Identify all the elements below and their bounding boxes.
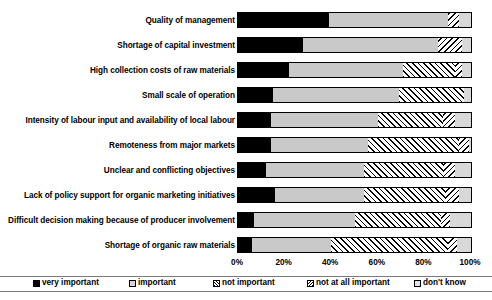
bar-segment-noti xyxy=(331,238,448,252)
chart-row: High collection costs of raw materials xyxy=(0,58,492,83)
category-label: Quality of management xyxy=(146,8,236,33)
bar-segment-notatall xyxy=(441,213,450,227)
legend-label: not at all important xyxy=(316,278,390,288)
bar-segment-very xyxy=(238,188,275,202)
bar-segment-very xyxy=(238,113,271,127)
bar-segment-dk xyxy=(464,88,471,102)
bar-segment-dk xyxy=(462,63,471,77)
legend-swatch-icon xyxy=(33,280,40,287)
legend-swatch-icon xyxy=(414,280,421,287)
x-tick-label: 0% xyxy=(231,258,243,267)
bar-segment-notatall xyxy=(445,188,459,202)
legend-swatch-icon xyxy=(213,280,220,287)
legend-label: don't know xyxy=(423,278,466,288)
legend-label: not important xyxy=(222,278,275,288)
bar-segment-very xyxy=(238,138,271,152)
bar-segment-very xyxy=(238,38,303,52)
bar-segment-imp xyxy=(329,13,448,27)
bar-segment-notatall xyxy=(443,113,455,127)
bar-segment-very xyxy=(238,63,289,77)
bar-segment-dk xyxy=(457,238,471,252)
legend-item[interactable]: not important xyxy=(213,278,275,288)
legend-item[interactable]: don't know xyxy=(414,278,466,288)
stacked-bar xyxy=(237,62,472,78)
chart-row: Lack of policy support for organic marke… xyxy=(0,183,492,208)
stacked-bar xyxy=(237,112,472,128)
legend-item[interactable]: not at all important xyxy=(307,278,390,288)
bar-segment-dk xyxy=(455,163,471,177)
bar-segment-very xyxy=(238,163,266,177)
bar-segment-dk xyxy=(469,138,471,152)
bar-segment-imp xyxy=(303,38,438,52)
x-tick-label: 100% xyxy=(460,258,481,267)
stacked-bar xyxy=(237,87,472,103)
chart-row: Shortage of capital investment xyxy=(0,33,492,58)
legend-label: important xyxy=(138,278,176,288)
bar-segment-notatall xyxy=(438,38,461,52)
bar-segment-very xyxy=(238,213,254,227)
category-label: High collection costs of raw materials xyxy=(90,58,235,83)
stacked-bar xyxy=(237,237,472,253)
bar-segment-dk xyxy=(455,113,471,127)
legend-items: very importantimportantnot importantnot … xyxy=(0,277,492,291)
stacked-bar xyxy=(237,187,472,203)
bar-segment-noti xyxy=(368,138,459,152)
stacked-bar-chart: Quality of managementShortage of capital… xyxy=(0,0,492,300)
category-label: Shortage of capital investment xyxy=(117,33,235,58)
bar-segment-dk xyxy=(459,188,471,202)
stacked-bar xyxy=(237,137,472,153)
bar-segment-very xyxy=(238,88,273,102)
category-label: Remoteness from major markets xyxy=(109,133,235,158)
bar-segment-dk xyxy=(450,213,471,227)
bar-segment-imp xyxy=(266,163,364,177)
x-tick-label: 20% xyxy=(275,258,291,267)
stacked-bar xyxy=(237,37,472,53)
bar-segment-notatall xyxy=(455,63,462,77)
x-tick-label: 80% xyxy=(415,258,431,267)
bar-segment-notatall xyxy=(448,238,457,252)
bar-segment-imp xyxy=(271,138,369,152)
bar-segment-very xyxy=(238,238,252,252)
chart-row: Small scale of operation xyxy=(0,83,492,108)
chart-row: Difficult decision making because of pro… xyxy=(0,208,492,233)
bar-segment-dk xyxy=(462,38,471,52)
category-label: Small scale of operation xyxy=(142,83,235,108)
bar-segment-noti xyxy=(378,113,443,127)
chart-legend: very importantimportantnot importantnot … xyxy=(0,276,492,292)
bar-segment-noti xyxy=(364,163,443,177)
stacked-bar xyxy=(237,212,472,228)
bar-segment-imp xyxy=(273,88,399,102)
x-axis: 0%20%40%60%80%100% xyxy=(237,258,470,272)
bar-segment-imp xyxy=(275,188,364,202)
chart-row: Shortage of organic raw materials xyxy=(0,233,492,258)
bar-segment-imp xyxy=(289,63,403,77)
bar-segment-dk xyxy=(459,13,471,27)
category-label: Intensity of labour input and availabili… xyxy=(25,108,235,133)
bar-segment-noti xyxy=(399,88,464,102)
legend-item[interactable]: very important xyxy=(33,278,99,288)
x-tick-label: 40% xyxy=(322,258,338,267)
bar-segment-noti xyxy=(364,188,446,202)
chart-plot-area: Quality of managementShortage of capital… xyxy=(0,8,492,258)
chart-row: Unclear and conflicting objectives xyxy=(0,158,492,183)
legend-swatch-icon xyxy=(307,280,314,287)
legend-label: very important xyxy=(42,278,99,288)
stacked-bar xyxy=(237,162,472,178)
bar-segment-very xyxy=(238,13,329,27)
x-tick-label: 60% xyxy=(369,258,385,267)
bar-segment-imp xyxy=(254,213,354,227)
bar-segment-notatall xyxy=(443,163,455,177)
category-label: Lack of policy support for organic marke… xyxy=(24,183,235,208)
category-label: Shortage of organic raw materials xyxy=(105,233,235,258)
bar-segment-imp xyxy=(252,238,331,252)
bar-segment-imp xyxy=(271,113,378,127)
chart-row: Quality of management xyxy=(0,8,492,33)
legend-swatch-icon xyxy=(129,280,136,287)
stacked-bar xyxy=(237,12,472,28)
chart-row: Remoteness from major markets xyxy=(0,133,492,158)
chart-row: Intensity of labour input and availabili… xyxy=(0,108,492,133)
bar-segment-notatall xyxy=(448,13,460,27)
legend-item[interactable]: important xyxy=(129,278,176,288)
bar-segment-notatall xyxy=(459,138,468,152)
category-label: Difficult decision making because of pro… xyxy=(8,208,235,233)
